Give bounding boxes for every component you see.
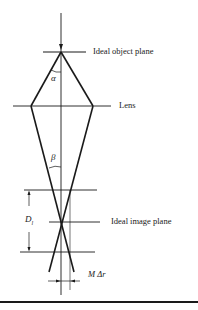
beta-label: β — [51, 153, 55, 162]
ray-left-upper — [31, 52, 61, 106]
beta-arc — [49, 166, 61, 168]
alpha-label: α — [51, 74, 56, 83]
depth-of-focus-label: Dl — [25, 215, 33, 226]
dl-arrowhead-up-icon — [28, 191, 31, 196]
lens-label: Lens — [119, 101, 136, 110]
blur-arrowhead-left-icon — [56, 280, 61, 283]
alpha-arc — [51, 70, 61, 72]
ray-right-upper — [61, 52, 93, 106]
ray-right-lower — [49, 106, 93, 272]
blur-arrowhead-right-icon — [71, 280, 76, 283]
blur-label: M Δr — [88, 270, 106, 279]
dl-arrowhead-down-icon — [28, 247, 31, 252]
object-plane-label: Ideal object plane — [93, 47, 153, 56]
ray-left-lower — [31, 106, 74, 272]
image-plane-label: Ideal image plane — [111, 217, 171, 226]
axis-arrow-icon — [59, 44, 63, 50]
depth-of-focus-sub: l — [32, 220, 34, 226]
